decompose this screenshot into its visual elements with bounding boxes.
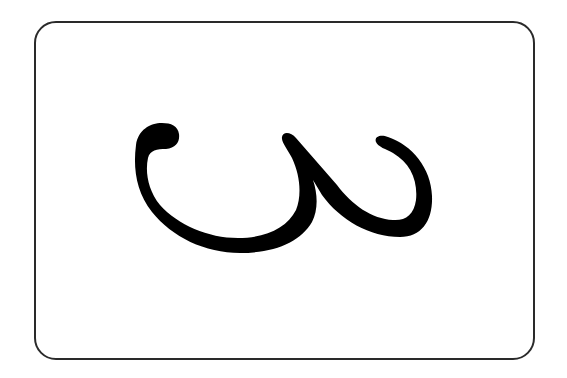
telugu-digit-three-glyph [0, 0, 567, 378]
